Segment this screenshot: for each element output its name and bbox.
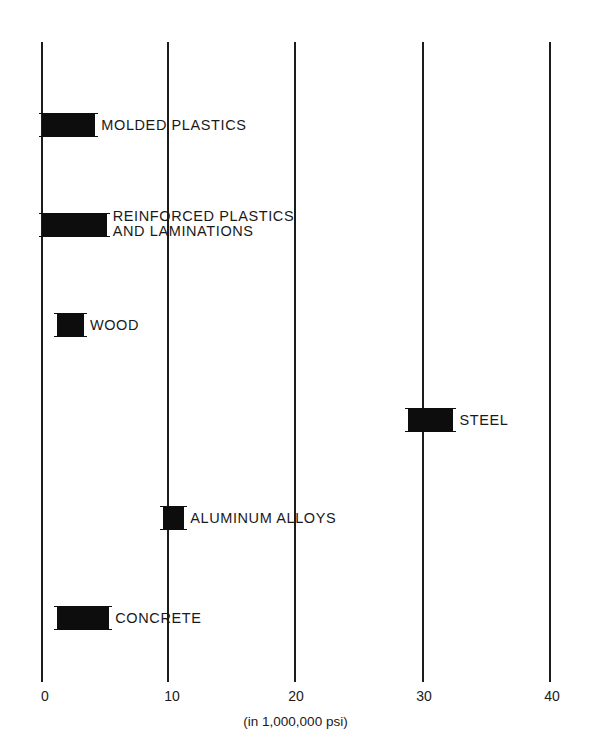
range-bar — [163, 506, 185, 530]
bar-label: REINFORCED PLASTICSAND LAMINATIONS — [113, 209, 294, 239]
bar-label-line: WOOD — [90, 318, 139, 333]
bar-label-line: AND LAMINATIONS — [113, 224, 294, 239]
bar-label: ALUMINUM ALLOYS — [190, 511, 336, 526]
bar-label: CONCRETE — [115, 611, 201, 626]
x-axis-label: (in 1,000,000 psi) — [0, 714, 591, 729]
bar-label: STEEL — [459, 413, 508, 428]
range-bar — [408, 408, 454, 432]
range-bar — [42, 113, 95, 137]
x-tick-30: 30 — [404, 688, 444, 704]
x-tick-40: 40 — [532, 688, 572, 704]
x-tick-10: 10 — [152, 688, 192, 704]
x-tick-20: 20 — [276, 688, 316, 704]
gridline-10 — [167, 42, 169, 682]
range-bar — [57, 606, 109, 630]
range-bar — [57, 313, 84, 337]
bar-label-line: STEEL — [459, 413, 508, 428]
gridline-0 — [41, 42, 43, 682]
gridline-40 — [549, 42, 551, 682]
x-tick-0: 0 — [25, 688, 65, 704]
modulus-range-chart: MOLDED PLASTICSREINFORCED PLASTICSAND LA… — [0, 0, 591, 755]
bar-label: MOLDED PLASTICS — [101, 118, 246, 133]
bar-label: WOOD — [90, 318, 139, 333]
bar-label-line: CONCRETE — [115, 611, 201, 626]
bar-label-line: REINFORCED PLASTICS — [113, 209, 294, 224]
bar-label-line: MOLDED PLASTICS — [101, 118, 246, 133]
gridline-30 — [422, 42, 424, 682]
range-bar — [42, 213, 107, 237]
gridline-20 — [294, 42, 296, 682]
bar-label-line: ALUMINUM ALLOYS — [190, 511, 336, 526]
